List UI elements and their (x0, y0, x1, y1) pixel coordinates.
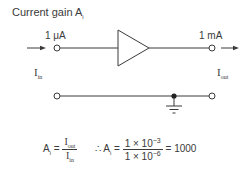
value-num-mantissa: 1 × 10 (125, 138, 153, 149)
lhs2-base: A (103, 143, 110, 154)
lhs2-sub: i (110, 150, 111, 156)
value-den-mantissa: 1 × 10 (125, 151, 153, 162)
output-current-name: Iout (217, 66, 228, 80)
input-current-label: 1 μA (45, 30, 66, 41)
output-terminal-icon (209, 45, 215, 51)
lhs-sub: i (50, 150, 51, 156)
value-num-exp: −3 (153, 137, 161, 144)
output-name-sub: out (221, 74, 229, 80)
therefore-symbol: ∴ (95, 143, 101, 154)
ratio-denominator: Iin (62, 150, 77, 163)
value-fraction: 1 × 10−3 1 × 10−6 (123, 137, 163, 163)
input-current-name: Iin (34, 66, 42, 80)
input-arrowhead-icon (40, 46, 46, 50)
formula-lhs: Ai (43, 143, 51, 154)
ratio-numerator: Iout (62, 136, 77, 150)
input-terminal-icon (54, 45, 60, 51)
gain-formula: Ai = Iout Iin ∴ Ai = 1 × 10−3 1 × 10−6 =… (43, 136, 196, 163)
input-name-sub: in (38, 74, 43, 80)
gain-result: 1000 (174, 143, 196, 154)
value-den-exp: −6 (153, 150, 161, 157)
equals-sign-2: = (114, 143, 120, 154)
ratio-num-sub: out (68, 143, 76, 149)
value-numerator: 1 × 10−3 (123, 137, 163, 150)
ratio-fraction: Iout Iin (62, 136, 77, 163)
output-current-label: 1 mA (199, 30, 222, 41)
output-arrowhead-icon (233, 46, 239, 50)
amplifier-icon (118, 30, 149, 66)
lhs-base: A (43, 143, 50, 154)
ratio-den-sub: in (69, 157, 74, 163)
junction-dot-icon (171, 93, 176, 98)
value-denominator: 1 × 10−6 (123, 150, 163, 162)
formula-lhs2: Ai (103, 143, 111, 154)
equals-sign: = (54, 143, 60, 154)
output-common-terminal-icon (209, 93, 215, 99)
equals-sign-3: = (166, 143, 172, 154)
input-common-terminal-icon (54, 93, 60, 99)
